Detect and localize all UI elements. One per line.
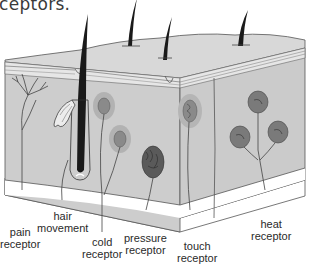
label-line: receptor	[124, 244, 167, 256]
label-line: movement	[37, 222, 88, 234]
label-line: receptor	[82, 248, 122, 260]
label-line: receptor	[251, 230, 291, 242]
label-cold-receptor: cold receptor	[82, 236, 122, 260]
label-pain-receptor: pain receptor	[0, 226, 40, 250]
label-line: heat	[251, 218, 291, 230]
hair-shaft-4	[128, 0, 137, 46]
label-pressure-receptor: pressure receptor	[124, 232, 167, 256]
label-line: hair	[37, 210, 88, 222]
label-heat-receptor: heat receptor	[251, 218, 291, 242]
label-line: touch	[177, 240, 217, 252]
label-line: cold	[82, 236, 122, 248]
label-line: pain	[0, 226, 40, 238]
label-line: receptor	[0, 238, 40, 250]
label-touch-receptor: touch receptor	[177, 240, 217, 264]
label-line: pressure	[124, 232, 167, 244]
label-hair-movement: hair movement	[37, 210, 88, 234]
label-line: receptor	[177, 252, 217, 264]
